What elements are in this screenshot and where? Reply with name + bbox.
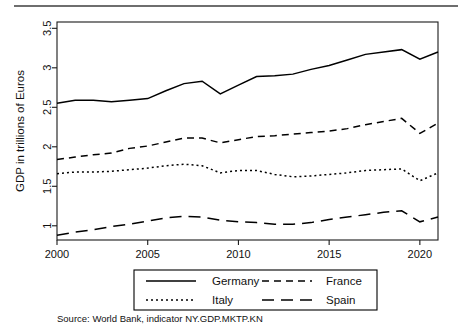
y-axis-tick-labels: 11.522.533.5	[41, 21, 53, 229]
series-line-spain	[57, 211, 438, 235]
chart-legend: Germany France Italy Spain	[134, 270, 377, 310]
legend-label-germany: Germany	[212, 275, 260, 287]
y-tick-label: 1	[41, 223, 53, 229]
y-axis-title: GDP in trillions of Euros	[14, 70, 26, 192]
series-line-italy	[57, 164, 438, 181]
gdp-line-chart: 11.522.533.5 20002005201020152020 GDP in…	[0, 0, 470, 331]
y-tick-label: 3.5	[41, 21, 53, 36]
legend-label-spain: Spain	[326, 294, 355, 306]
x-tick-label: 2020	[408, 248, 432, 260]
series-line-france	[57, 118, 438, 159]
x-axis-tick-labels: 20002005201020152020	[45, 248, 432, 260]
legend-label-france: France	[326, 275, 362, 287]
plot-frame	[57, 22, 438, 240]
x-tick-label: 2000	[45, 248, 69, 260]
x-tick-label: 2005	[135, 248, 159, 260]
legend-label-italy: Italy	[212, 294, 233, 306]
x-tick-label: 2015	[317, 248, 341, 260]
source-note: Source: World Bank, indicator NY.GDP.MKT…	[57, 313, 263, 324]
x-axis-ticks	[57, 240, 420, 245]
y-axis-ticks	[52, 28, 57, 225]
y-tick-label: 2.5	[41, 100, 53, 115]
x-tick-label: 2010	[226, 248, 250, 260]
y-tick-label: 3	[41, 65, 53, 71]
series-line-germany	[57, 50, 438, 104]
y-tick-label: 2	[41, 144, 53, 150]
y-tick-label: 1.5	[41, 179, 53, 194]
series-layer	[57, 50, 438, 236]
